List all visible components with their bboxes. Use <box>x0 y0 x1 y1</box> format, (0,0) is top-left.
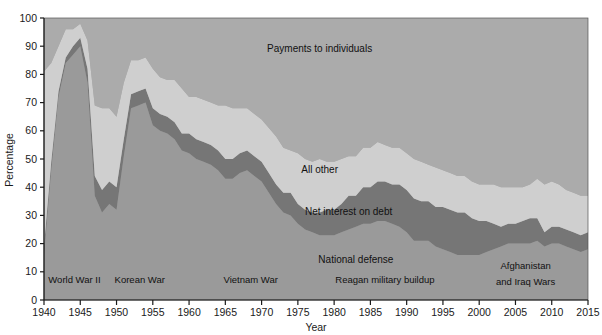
y-tick-label: 0 <box>31 294 37 306</box>
x-tick-label: 2000 <box>468 306 492 318</box>
x-tick-label: 1980 <box>322 306 346 318</box>
x-tick-label: 1960 <box>177 306 201 318</box>
annotation-world-war-ii: World War II <box>48 274 100 285</box>
series-label-all-other: All other <box>301 164 338 175</box>
annotation-afghanistan-and-iraq-wars-line1: Afghanistan <box>501 260 551 271</box>
series-label-payments-to-individuals: Payments to individuals <box>267 43 372 54</box>
y-tick-label: 70 <box>25 96 37 108</box>
y-tick-label: 90 <box>25 40 37 52</box>
x-tick-label: 1955 <box>141 306 165 318</box>
x-tick-label: 2005 <box>504 306 528 318</box>
y-tick-label: 40 <box>25 181 37 193</box>
stacked-area-chart: 0102030405060708090100 19401945195019551… <box>0 0 602 335</box>
y-tick-label: 10 <box>25 265 37 277</box>
y-tick-label: 30 <box>25 209 37 221</box>
x-axis-title: Year <box>305 321 327 333</box>
series-label-net-interest-on-debt: Net interest on debt <box>305 206 392 217</box>
x-tick-label: 1950 <box>105 306 129 318</box>
x-tick-label: 1965 <box>214 306 238 318</box>
y-tick-label: 80 <box>25 68 37 80</box>
annotation-afghanistan-and-iraq-wars-line2: and Iraq Wars <box>496 276 556 287</box>
x-tick-label: 1990 <box>395 306 419 318</box>
y-tick-label: 20 <box>25 237 37 249</box>
y-axis: 0102030405060708090100 <box>19 12 44 306</box>
x-tick-label: 1940 <box>32 306 56 318</box>
x-tick-label: 2010 <box>540 306 564 318</box>
x-tick-label: 1995 <box>431 306 455 318</box>
x-tick-label: 1945 <box>69 306 93 318</box>
series-label-national-defense: National defense <box>318 254 393 265</box>
annotation-korean-war: Korean War <box>115 274 165 285</box>
y-axis-title: Percentage <box>3 133 15 187</box>
y-tick-label: 50 <box>25 153 37 165</box>
y-tick-label: 60 <box>25 124 37 136</box>
y-tick-label: 100 <box>19 12 37 24</box>
x-tick-label: 2015 <box>576 306 600 318</box>
x-tick-label: 1975 <box>286 306 310 318</box>
stacked-area-series-group <box>44 18 588 300</box>
x-axis: 1940194519501955196019651970197519801985… <box>32 300 600 318</box>
x-tick-label: 1985 <box>359 306 383 318</box>
chart-container: 0102030405060708090100 19401945195019551… <box>0 0 602 335</box>
annotation-vietnam-war: Vietnam War <box>224 274 278 285</box>
x-tick-label: 1970 <box>250 306 274 318</box>
annotation-reagan-military-buildup: Reagan military buildup <box>335 274 434 285</box>
